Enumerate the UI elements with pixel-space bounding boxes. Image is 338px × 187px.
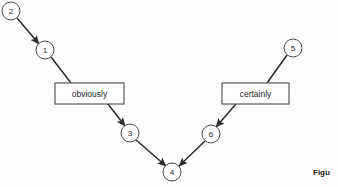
- edge-obviously-to-3: [108, 104, 125, 126]
- node-1-label: 1: [43, 46, 48, 55]
- node-4: 4: [163, 163, 181, 181]
- node-6: 6: [202, 125, 220, 143]
- boxes-layer: obviouslycertainly: [55, 83, 289, 104]
- node-3-label: 3: [128, 129, 133, 138]
- edge-1-to-obviously: [51, 57, 71, 83]
- node-5-label: 5: [291, 44, 296, 53]
- node-2-label: 2: [9, 7, 14, 16]
- box-certainly: certainly: [222, 83, 289, 104]
- box-certainly-label: certainly: [240, 89, 272, 99]
- node-2: 2: [2, 2, 20, 20]
- figure-caption: Figu: [313, 168, 330, 177]
- node-1: 1: [36, 41, 54, 59]
- node-6-label: 6: [209, 130, 214, 139]
- node-5: 5: [284, 39, 302, 57]
- flow-diagram: obviouslycertainly 213465: [0, 0, 338, 187]
- edge-certainly-to-6: [216, 104, 236, 127]
- node-3: 3: [121, 124, 139, 142]
- node-4-label: 4: [170, 168, 175, 177]
- figure-canvas: obviouslycertainly 213465 Figu: [0, 0, 338, 187]
- edge-5-to-certainly: [267, 55, 287, 83]
- edge-6-to-4: [179, 141, 205, 166]
- edge-3-to-4: [136, 140, 166, 166]
- box-obviously: obviously: [55, 83, 124, 104]
- box-obviously-label: obviously: [72, 89, 108, 99]
- edge-2-to-1: [17, 18, 39, 44]
